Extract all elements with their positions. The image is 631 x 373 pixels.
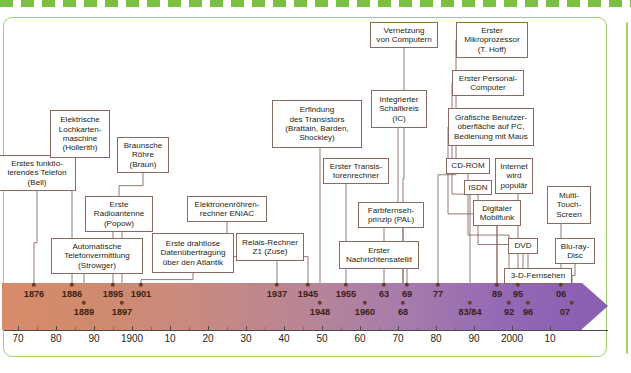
event-box-satellit[interactable]: Erster Nachrichtensatellit (339, 241, 419, 269)
axis-tick (246, 326, 247, 331)
axis-tick-minor (531, 327, 532, 330)
year-label: 1955 (336, 289, 356, 299)
axis-tick-minor (151, 327, 152, 330)
event-box-mobilfunk[interactable]: Digitaler Mobilfunk (473, 200, 521, 226)
year-label: 1886 (62, 289, 82, 299)
event-box-lochkarten[interactable]: Elektrische Lochkarten- maschine (Holler… (50, 110, 110, 158)
year-label: 92 (504, 307, 514, 317)
axis-tick-minor (417, 327, 418, 330)
axis-tick-minor (265, 327, 266, 330)
connector-telefon (34, 191, 37, 285)
axis-tick (436, 326, 437, 331)
axis-tick-label: 2000 (501, 333, 523, 344)
axis-tick (94, 326, 95, 331)
event-box-gui[interactable]: Grafische Benutzer- oberfläche auf PC, B… (448, 108, 534, 146)
axis-tick-label: 80 (430, 333, 441, 344)
axis-tick-label: 30 (240, 333, 251, 344)
axis-tick-label: 90 (88, 333, 99, 344)
axis-tick-label: 60 (354, 333, 365, 344)
year-label: 89 (492, 289, 502, 299)
axis-tick-minor (75, 327, 76, 330)
connector-bluray (572, 264, 575, 285)
year-label: 1897 (112, 307, 132, 317)
axis-tick (170, 326, 171, 331)
event-box-pal[interactable]: Farbfernseh- prinzip (PAL) (358, 202, 424, 228)
year-label: 1889 (74, 307, 94, 317)
axis-tick-label: 70 (12, 333, 23, 344)
axis-tick-minor (113, 327, 114, 330)
year-label: 95 (513, 289, 523, 299)
year-label: 1960 (355, 307, 375, 317)
axis-tick-label: 70 (392, 333, 403, 344)
axis-tick-minor (493, 327, 494, 330)
axis-tick-label: 1900 (121, 333, 143, 344)
event-box-multitouch[interactable]: Multi- Touch- Screen (547, 186, 591, 224)
axis-tick-label: 80 (50, 333, 61, 344)
event-box-braunsche[interactable]: Braunsche Röhre (Braun) (117, 137, 169, 173)
event-box-transrechner[interactable]: Erster Transis- torenrechner (323, 158, 389, 184)
axis-tick (284, 326, 285, 331)
event-box-telefon[interactable]: Erstes funktio- ierendes Telefon (Bell) (0, 155, 76, 191)
event-box-internet[interactable]: Internet wird populär (495, 158, 533, 194)
event-box-drahtlos[interactable]: Erste drahtlose Datenübertragung über de… (152, 233, 234, 273)
axis-tick (550, 326, 551, 331)
axis-tick-label: 90 (468, 333, 479, 344)
event-box-dvd[interactable]: DVD (508, 238, 538, 254)
event-box-pc[interactable]: Erster Personal- Computer (452, 70, 524, 96)
event-box-mikroprozessor[interactable]: Erster Mikroprozessor (T. Hoff) (456, 22, 528, 58)
event-box-eniac[interactable]: Elektronenröhren- rechner ENIAC (187, 196, 267, 222)
axis-tick-minor (227, 327, 228, 330)
year-label: 07 (560, 307, 570, 317)
year-label: 1876 (24, 289, 44, 299)
event-box-cdrom[interactable]: CD-ROM (446, 158, 490, 174)
axis-tick-minor (303, 327, 304, 330)
axis-tick (132, 326, 133, 331)
timeline-arrow-tip (582, 283, 608, 329)
year-label: 63 (379, 289, 389, 299)
event-box-telefonvermitt[interactable]: Automatische Telefonvermittlung (Strowge… (51, 238, 143, 274)
axis-tick-label: 10 (164, 333, 175, 344)
year-label: 1895 (103, 289, 123, 299)
year-label: 1937 (267, 289, 287, 299)
axis-tick (474, 326, 475, 331)
timeline-infographic: Erstes funktio- ierendes Telefon (Bell)E… (0, 0, 631, 373)
year-label: 77 (433, 289, 443, 299)
event-box-tv3d[interactable]: 3-D-Fernsehen (504, 268, 572, 284)
axis-tick-minor (189, 327, 190, 330)
axis-tick-minor (379, 327, 380, 330)
event-box-isdn[interactable]: ISDN (464, 180, 492, 195)
event-box-bluray[interactable]: Blu-ray- Disc (555, 238, 595, 264)
year-label: 96 (523, 307, 533, 317)
time-axis: 7080901900102030405060708090200010 (0, 330, 631, 358)
axis-tick-label: 20 (202, 333, 213, 344)
year-label: 1945 (298, 289, 318, 299)
axis-tick (360, 326, 361, 331)
axis-tick (18, 326, 19, 331)
event-box-vernetzung[interactable]: Vernetzung von Computern (370, 22, 438, 48)
axis-tick (56, 326, 57, 331)
year-label: 69 (402, 289, 412, 299)
event-box-z1[interactable]: Relais-Rechner Z1 (Zuse) (236, 233, 304, 261)
event-box-transistor[interactable]: Erfindung des Transistors (Brattain, Bar… (272, 100, 362, 148)
year-label: 06 (556, 289, 566, 299)
axis-tick (208, 326, 209, 331)
axis-tick-minor (37, 327, 38, 330)
axis-tick (398, 326, 399, 331)
event-box-radioantenne[interactable]: Erste Radioantenne (Popow) (85, 196, 153, 232)
year-label: 1901 (131, 289, 151, 299)
axis-tick-minor (455, 327, 456, 330)
year-label: 68 (398, 307, 408, 317)
connector-braunsche (119, 173, 143, 196)
axis-tick-minor (341, 327, 342, 330)
axis-tick-label: 50 (316, 333, 327, 344)
axis-tick-minor (569, 327, 570, 330)
axis-tick (512, 326, 513, 331)
axis-tick-label: 10 (544, 333, 555, 344)
year-label: 83/84 (459, 307, 482, 317)
axis-tick-label: 40 (278, 333, 289, 344)
axis-tick (322, 326, 323, 331)
event-box-ic[interactable]: Integrierter Schaltkreis (IC) (371, 90, 427, 128)
year-label: 1948 (310, 307, 330, 317)
